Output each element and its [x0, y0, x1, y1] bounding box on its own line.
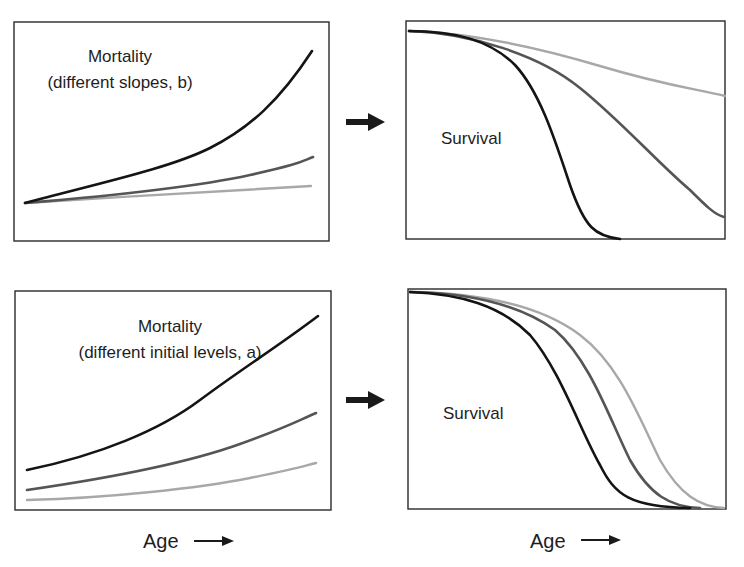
- right-arrow-icon: [581, 535, 621, 545]
- age-label: Age: [143, 530, 179, 552]
- panel-title-line2: (different slopes, b): [47, 73, 192, 92]
- panel-survival-levels: Survival: [408, 289, 726, 509]
- panel-frame: [14, 22, 329, 241]
- age-label: Age: [530, 530, 566, 552]
- panel-mortality-levels: Mortality (different initial levels, a): [15, 291, 331, 510]
- panel-title-line1: Mortality: [138, 317, 203, 336]
- curve-light-gray: [27, 463, 316, 500]
- curve-dark-gray: [410, 292, 700, 508]
- panel-label-survival: Survival: [441, 129, 501, 148]
- right-arrow-icon: [346, 391, 385, 409]
- curve-dark-gray: [409, 31, 724, 217]
- panel-title-line2: (different initial levels, a): [79, 343, 262, 362]
- right-arrow-icon: [194, 536, 234, 546]
- curve-light-gray: [410, 292, 724, 508]
- figure-canvas: Mortality (different slopes, b) Survival…: [0, 0, 744, 567]
- panel-survival-slopes: Survival: [406, 21, 725, 239]
- curve-dark-gray: [27, 413, 316, 490]
- x-axis-label-left: Age: [143, 530, 234, 552]
- right-arrow-icon: [346, 113, 385, 131]
- panel-title-line1: Mortality: [88, 47, 153, 66]
- curve-black: [27, 316, 318, 470]
- x-axis-label-right: Age: [530, 530, 621, 552]
- curve-black: [410, 292, 690, 508]
- panel-mortality-slopes: Mortality (different slopes, b): [14, 22, 329, 241]
- curve-light-gray: [409, 31, 725, 96]
- panel-label-survival: Survival: [443, 404, 503, 423]
